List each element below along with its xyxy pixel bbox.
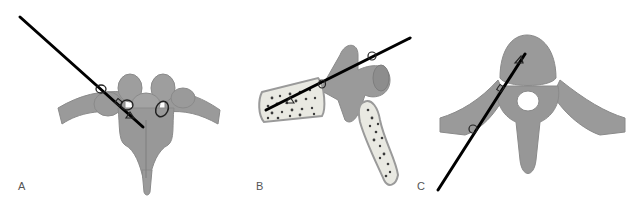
panel-label-a: A: [18, 180, 25, 192]
panel-label-b: B: [256, 180, 263, 192]
panel-a: A: [0, 0, 240, 210]
panel-c: C: [425, 0, 637, 210]
panel-label-c: C: [417, 180, 425, 192]
panel-b: B: [240, 0, 425, 210]
vertebra-posterior-illustration: [0, 0, 240, 210]
vertebra-axial-illustration: [425, 0, 637, 210]
vertebra-lateral-illustration: [240, 0, 425, 210]
